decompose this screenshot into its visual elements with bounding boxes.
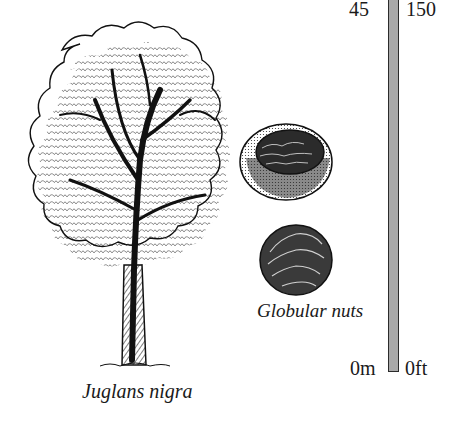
walnut-in-husk-icon	[238, 118, 334, 202]
fruit-caption: Globular nuts	[257, 300, 363, 322]
scale-metric-min: 0m	[350, 357, 376, 380]
scale-metric-max: 45	[349, 0, 369, 21]
walnut-whole-icon	[258, 222, 334, 298]
tree-illustration	[0, 10, 260, 380]
scale-imperial-min: 0ft	[405, 357, 427, 380]
scale-imperial-max: 150	[406, 0, 436, 21]
species-name: Juglans nigra	[82, 380, 193, 403]
height-scale-bar	[388, 0, 399, 372]
